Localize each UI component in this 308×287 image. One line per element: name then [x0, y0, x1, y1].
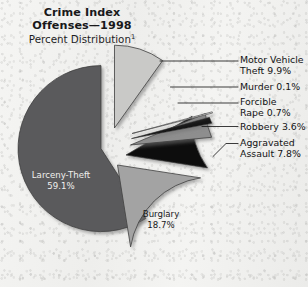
slice-label-larceny-theft-name: Larceny-Theft: [20, 170, 102, 181]
callout-label-aggravated-assault: Aggravated Assault 7.8%: [240, 137, 301, 160]
callout-robbery-line-1: Robbery 3.6%: [240, 121, 306, 132]
callout-label-motor-vehicle-theft: Motor Vehicle Theft 9.9%: [240, 54, 304, 77]
slice-label-burglary-name: Burglary: [129, 209, 193, 220]
callout-forcible-rape-line-1: Forcible: [240, 96, 291, 107]
slice-label-larceny-theft: Larceny-Theft 59.1%: [20, 170, 102, 192]
callout-label-murder: Murder 0.1%: [240, 81, 300, 92]
callout-murder-line-1: Murder 0.1%: [240, 81, 300, 92]
slice-label-burglary: Burglary 18.7%: [129, 209, 193, 231]
pie-slice-burglary[interactable]: [118, 165, 201, 247]
callout-label-forcible-rape: Forcible Rape 0.7%: [240, 96, 291, 119]
callout-aggravated-assault-line-1: Aggravated: [240, 137, 301, 148]
pie-chart-figure: Crime Index Offenses—1998 Percent Distri…: [0, 0, 308, 287]
slice-label-larceny-theft-value: 59.1%: [20, 181, 102, 192]
slice-label-burglary-value: 18.7%: [129, 220, 193, 231]
callout-forcible-rape-line-2: Rape 0.7%: [240, 107, 291, 118]
callout-motor-vehicle-theft-line-2: Theft 9.9%: [240, 65, 304, 76]
callout-aggravated-assault-line-2: Assault 7.8%: [240, 148, 301, 159]
callout-motor-vehicle-theft-line-1: Motor Vehicle: [240, 54, 304, 65]
leader-line-aggravated-assault: [213, 144, 238, 157]
pie-slice-motor-vehicle-theft[interactable]: [115, 45, 163, 128]
callout-label-robbery: Robbery 3.6%: [240, 121, 306, 132]
